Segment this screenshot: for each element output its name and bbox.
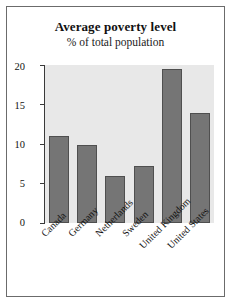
chart-subtitle: % of total population	[7, 35, 224, 49]
chart-title-block: Average poverty level % of total populat…	[7, 19, 224, 49]
y-tick-label-20: 20	[0, 62, 25, 72]
chart-figure: Average poverty level % of total populat…	[6, 6, 225, 297]
y-tick-label-10: 10	[0, 140, 25, 150]
y-tick-label-5: 5	[0, 179, 25, 189]
y-tick-label-15: 15	[0, 101, 25, 111]
y-tick-label-0: 0	[0, 218, 25, 228]
page-title: Average poverty level	[7, 19, 224, 34]
